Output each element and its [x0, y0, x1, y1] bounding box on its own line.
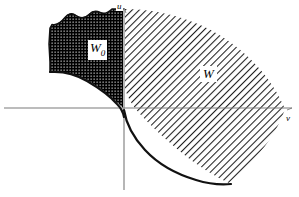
math-figure: W0 W u v [0, 0, 299, 197]
axis-label-u: u [116, 2, 123, 11]
figure-canvas [0, 0, 299, 197]
region-w0-fill [49, 9, 123, 108]
region-label-w0: W0 [88, 40, 107, 60]
region-w-fill [125, 9, 285, 183]
region-label-w0-base: W [90, 40, 101, 55]
region-label-w0-subscript: 0 [101, 48, 106, 58]
axis-label-v: v [285, 114, 291, 123]
region-label-w: W [200, 66, 217, 82]
